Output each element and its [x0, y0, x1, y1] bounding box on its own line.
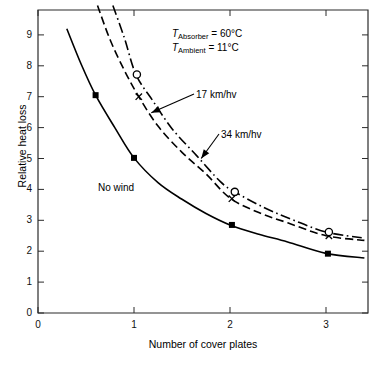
absorber-value: = 60°C — [211, 28, 242, 39]
series-curve-0 — [67, 29, 365, 258]
series-label-no-wind: No wind — [98, 182, 134, 193]
absorber-subscript: Absorber — [178, 32, 208, 41]
annotation-absorber-temperature: TAbsorber = 60°C — [172, 28, 242, 39]
data-marker-filled-square — [93, 92, 99, 98]
y-tick-label: 1 — [16, 276, 32, 287]
data-marker-open-circle — [231, 188, 238, 195]
x-tick-label: 0 — [30, 319, 46, 330]
x-tick-label: 1 — [126, 319, 142, 330]
x-axis-title: Number of cover plates — [38, 338, 368, 350]
y-tick-label: 0 — [16, 307, 32, 318]
data-marker-open-circle — [325, 228, 332, 235]
ambient-value: = 11°C — [208, 42, 238, 53]
ambient-subscript: Ambient — [178, 46, 206, 55]
data-marker-filled-square — [325, 251, 331, 257]
y-tick-label: 8 — [16, 60, 32, 71]
data-marker-cross — [229, 195, 235, 201]
y-axis-title: Relative heat loss — [16, 91, 28, 201]
y-tick-label: 3 — [16, 214, 32, 225]
annotation-arrows — [151, 94, 219, 159]
arrow-17 — [151, 94, 194, 113]
series-label-17kmhv: 17 km/hv — [196, 89, 237, 100]
data-marker-cross — [136, 94, 142, 100]
axis-ticks — [38, 10, 368, 313]
arrow-34 — [201, 134, 219, 159]
series-label-34kmhv: 34 km/hv — [221, 129, 262, 140]
data-marker-filled-square — [131, 155, 137, 161]
y-tick-label: 2 — [16, 245, 32, 256]
chart-figure: 0123456789 0123 Relative heat loss Numbe… — [0, 0, 384, 365]
data-marker-filled-square — [229, 222, 235, 228]
plot-frame — [38, 10, 368, 313]
annotation-ambient-temperature: TAmbient = 11°C — [172, 42, 239, 53]
data-marker-open-circle — [133, 71, 140, 78]
y-tick-label: 9 — [16, 29, 32, 40]
series-curve-1 — [98, 6, 365, 241]
x-tick-label: 2 — [222, 319, 238, 330]
x-tick-label: 3 — [318, 319, 334, 330]
